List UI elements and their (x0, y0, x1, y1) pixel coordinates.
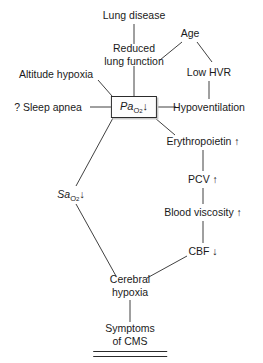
edge-pao2-to-erythropoietin (155, 118, 175, 135)
terminal-double-underline (93, 351, 167, 357)
node-cbf-label: CBF ↓ (188, 245, 217, 258)
node-symptoms-of-cms-line1: Symptoms (105, 322, 155, 335)
node-sleep-apnea: ? Sleep apnea (14, 101, 82, 114)
node-sao2-prefix: Sa (57, 188, 70, 200)
node-low-hvr-label: Low HVR (187, 66, 231, 79)
node-cerebral-hypoxia-line1: Cerebral (110, 273, 150, 286)
node-hypoventilation: Hypoventilation (173, 101, 245, 114)
node-altitude-hypoxia: Altitude hypoxia (19, 68, 93, 81)
node-altitude-hypoxia-label: Altitude hypoxia (19, 68, 93, 81)
node-reduced-lung-function: Reduced lung function (104, 42, 164, 68)
node-sao2-down-arrow-icon: ↓ (79, 188, 84, 200)
node-symptoms-of-cms-line2: of CMS (105, 335, 155, 348)
edge-sao2-to-cerebral-hypoxia (76, 204, 116, 276)
node-cerebral-hypoxia-line2: hypoxia (110, 286, 150, 299)
node-pao2-down-arrow-icon: ↓ (143, 100, 149, 112)
node-cerebral-hypoxia: Cerebral hypoxia (110, 273, 150, 299)
node-age-label: Age (181, 27, 200, 40)
node-cbf: CBF ↓ (188, 245, 217, 258)
node-low-hvr: Low HVR (187, 66, 231, 79)
node-sao2: SaO2↓ (57, 188, 84, 201)
node-sleep-apnea-label: ? Sleep apnea (14, 101, 82, 114)
edge-pao2-to-sao2 (76, 118, 113, 186)
edge-cbf-to-cerebral-hypoxia (147, 256, 187, 278)
node-erythropoietin: Erythropoietin ↑ (167, 135, 240, 148)
cms-pathophysiology-diagram: Lung disease Age Reduced lung function L… (0, 0, 263, 363)
node-pcv: PCV ↑ (188, 173, 218, 186)
node-reduced-lung-function-line2: lung function (104, 55, 164, 68)
node-pao2-prefix: Pa (120, 100, 133, 112)
edge-altitude-hypoxia-to-pao2 (98, 80, 112, 96)
node-symptoms-of-cms: Symptoms of CMS (105, 322, 155, 348)
node-age: Age (181, 27, 200, 40)
node-erythropoietin-label: Erythropoietin ↑ (167, 135, 240, 148)
node-blood-viscosity-label: Blood viscosity ↑ (164, 206, 242, 219)
node-lung-disease-label: Lung disease (103, 9, 165, 22)
node-reduced-lung-function-line1: Reduced (104, 42, 164, 55)
node-hypoventilation-label: Hypoventilation (173, 101, 245, 114)
node-lung-disease: Lung disease (103, 9, 165, 22)
node-pao2-box: PaO2↓ (111, 96, 157, 118)
node-blood-viscosity: Blood viscosity ↑ (164, 206, 242, 219)
node-pcv-label: PCV ↑ (188, 173, 218, 186)
edge-age-to-low-hvr (197, 42, 212, 62)
